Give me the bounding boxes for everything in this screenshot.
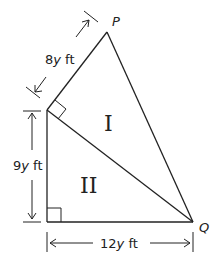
dimension-label-bottom: 12y ft [100, 236, 138, 251]
right-side [107, 32, 193, 222]
vertex-label-p: P [112, 14, 120, 29]
dimension-label-left: 9y ft [13, 158, 43, 173]
dimension-label-top: 8y ft [45, 52, 75, 67]
geometry-diagram: 8y ft 9y ft 12y ft P Q I II [0, 0, 221, 268]
region-label-ii: II [80, 173, 97, 198]
region-label-i: I [104, 111, 113, 136]
top-side [47, 32, 107, 110]
right-angle-mark-top [55, 100, 66, 119]
vertex-label-q: Q [199, 220, 209, 235]
diagonal-shared [47, 110, 193, 222]
right-angle-mark-bottom [47, 208, 61, 222]
